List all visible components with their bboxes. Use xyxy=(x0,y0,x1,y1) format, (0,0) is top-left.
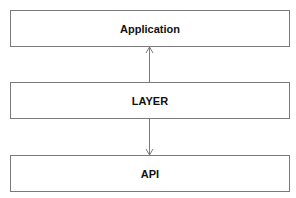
arrow-layer-to-application xyxy=(146,47,153,82)
arrow-layer-to-api xyxy=(146,118,153,155)
connector-arrows xyxy=(0,0,296,198)
